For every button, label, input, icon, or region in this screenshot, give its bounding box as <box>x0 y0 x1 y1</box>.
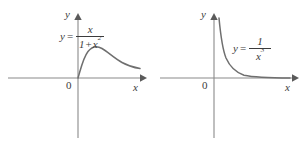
two-plot-figure: y x 0 y = x 1+x2 y x 0 y <box>0 0 305 147</box>
x-axis-label-right: x <box>285 82 290 93</box>
equation-equals-left: = <box>67 31 73 42</box>
plot-panel-right: y x 0 y = 1 x3 <box>152 0 304 147</box>
plot-panel-left: y x 0 y = x 1+x2 <box>0 0 152 147</box>
plot-right-graphic <box>152 0 305 147</box>
denominator-exponent-right: 3 <box>261 46 265 54</box>
x-axis-arrowhead-right <box>292 74 299 82</box>
y-axis-label-left: y <box>65 9 70 20</box>
equation-equals-right: = <box>240 43 246 54</box>
equation-lhs-right: y <box>233 43 238 54</box>
x-axis-label-left: x <box>133 82 138 93</box>
plot-left-graphic <box>0 0 152 147</box>
denominator-operator-left: + <box>85 38 93 50</box>
denominator-term-two-left: x <box>93 38 98 50</box>
curve-x-over-1-plus-x-squared <box>78 47 140 78</box>
equation-denominator-right: x3 <box>253 49 267 62</box>
y-axis-arrowhead-left <box>74 13 81 20</box>
equation-label-right: y = 1 x3 <box>233 36 271 62</box>
origin-label-right: 0 <box>202 80 208 91</box>
denominator-exponent-left: 2 <box>98 34 102 42</box>
equation-denominator-left: 1+x2 <box>76 37 104 50</box>
denominator-term-one-left: 1 <box>79 38 85 50</box>
equation-fraction-right: 1 x3 <box>249 36 271 62</box>
equation-lhs-left: y <box>60 31 65 42</box>
equation-numerator-left: x <box>85 24 96 36</box>
origin-label-left: 0 <box>66 80 72 91</box>
x-axis-arrowhead-left <box>140 74 147 82</box>
equation-fraction-left: x 1+x2 <box>76 24 104 50</box>
equation-label-left: y = x 1+x2 <box>60 24 104 50</box>
y-axis-arrowhead-right <box>210 13 217 20</box>
y-axis-label-right: y <box>201 9 206 20</box>
